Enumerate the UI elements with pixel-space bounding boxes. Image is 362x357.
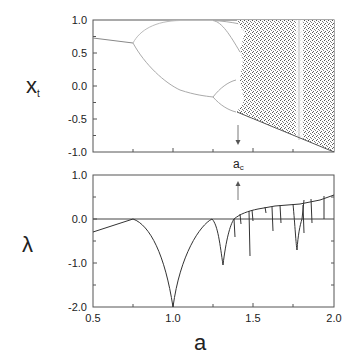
xtick-labels: 0.5 1.0 1.5 2.0 [85,312,341,324]
bottom-ylabel: λ [22,232,33,257]
top-ytick-labels: 1.0 0.5 0.0 -0.5 -1.0 [68,14,87,158]
top-ylabel: xt [26,73,40,99]
svg-text:1.0: 1.0 [72,14,87,26]
svg-text:1.0: 1.0 [72,169,87,181]
svg-text:0.0: 0.0 [72,80,87,92]
lyapunov-plot [93,195,334,307]
figure: 1.0 0.5 0.0 -0.5 -1.0 1.0 0.0 -1.0 -2.0 … [0,0,362,357]
svg-text:0.5: 0.5 [85,312,100,324]
bottom-ticks [93,197,334,307]
bifurcation-diagram [93,20,334,152]
svg-text:-1.0: -1.0 [68,146,87,158]
ac-annotation: ac [233,125,244,200]
svg-text:-1.0: -1.0 [68,257,87,269]
svg-text:1.5: 1.5 [245,312,260,324]
xlabel: a [194,330,207,355]
ac-label: ac [233,157,244,172]
svg-text:1.0: 1.0 [165,312,180,324]
svg-text:0.0: 0.0 [72,213,87,225]
svg-text:-0.5: -0.5 [68,113,87,125]
bottom-ytick-labels: 1.0 0.0 -1.0 -2.0 [68,169,87,313]
svg-text:-2.0: -2.0 [68,301,87,313]
svg-text:2.0: 2.0 [326,312,341,324]
svg-text:0.5: 0.5 [72,47,87,59]
